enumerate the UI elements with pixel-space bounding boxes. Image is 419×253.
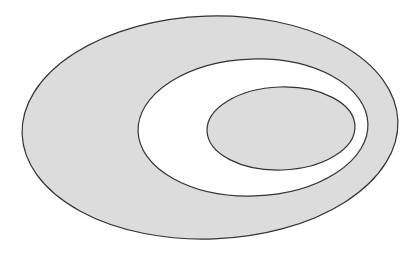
nested-ellipses-figure bbox=[0, 0, 419, 253]
diagram-canvas bbox=[0, 0, 419, 253]
